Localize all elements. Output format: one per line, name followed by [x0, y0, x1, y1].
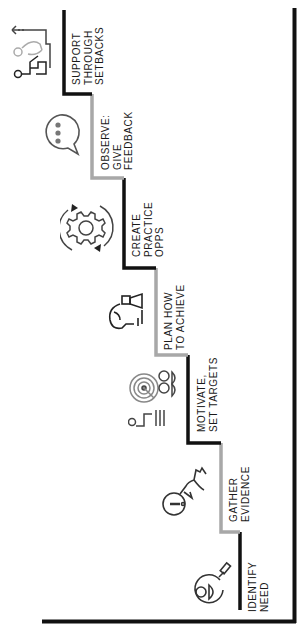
label-line: OBSERVE: [100, 111, 112, 170]
label-line: PLAN HOW [163, 284, 175, 350]
step-gather-label: GATHER EVIDENCE [228, 466, 251, 522]
step-practice-label: CREATE PRACTICE OPPS [131, 202, 166, 257]
label-line: SETBACKS [94, 27, 106, 85]
hand-chess-piece-icon [104, 290, 146, 334]
step-identify-label: IDENTIFY NEED [247, 562, 270, 612]
step-observe-label: OBSERVE: GIVE FEEDBACK [100, 111, 135, 170]
label-line: IDENTIFY [247, 562, 259, 612]
gear-cycle-icon [60, 200, 116, 256]
label-line: FEEDBACK [123, 111, 135, 170]
speech-bubble-icon [40, 112, 82, 158]
step-support-label: SUPPORT THROUGH SETBACKS [71, 27, 106, 85]
target-presentation-icon [128, 368, 186, 432]
label-line: THROUGH [83, 27, 95, 85]
person-magnifier-icon [190, 560, 234, 606]
label-line: GIVE [112, 111, 124, 170]
hand-magnifier-icon [158, 462, 210, 518]
label-line: MOTIVATE, [196, 357, 208, 432]
step-motivate-label: MOTIVATE, SET TARGETS [196, 357, 219, 432]
label-line: PRACTICE [143, 202, 155, 257]
label-line: NEED [259, 562, 271, 612]
label-line: GATHER [228, 466, 240, 522]
staircase-lines [0, 0, 308, 633]
label-line: SUPPORT [71, 27, 83, 85]
label-line: SET TARGETS [208, 357, 220, 432]
staircase-diagram: IDENTIFY NEED GATHER EVIDENCE MOTIVATE, … [0, 0, 308, 633]
person-helping-fallen-icon [6, 14, 54, 80]
label-line: TO ACHIEVE [175, 284, 187, 350]
label-line: CREATE [131, 202, 143, 257]
label-line: EVIDENCE [240, 466, 252, 522]
label-line: OPPS [154, 202, 166, 257]
step-plan-label: PLAN HOW TO ACHIEVE [163, 284, 186, 350]
